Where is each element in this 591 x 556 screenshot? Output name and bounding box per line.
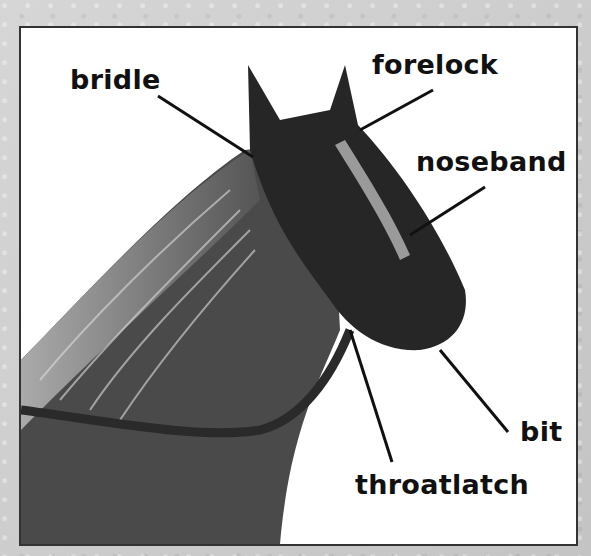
forelock-leader-line: [360, 90, 433, 130]
label-bridle: bridle: [70, 66, 161, 93]
bridle-leader-line: [158, 96, 253, 157]
throatlatch-leader-line: [350, 330, 392, 462]
label-throatlatch: throatlatch: [355, 471, 529, 498]
label-noseband: noseband: [416, 148, 567, 175]
bit-leader-line: [440, 350, 508, 432]
label-bit: bit: [520, 418, 562, 445]
label-forelock: forelock: [372, 51, 498, 78]
